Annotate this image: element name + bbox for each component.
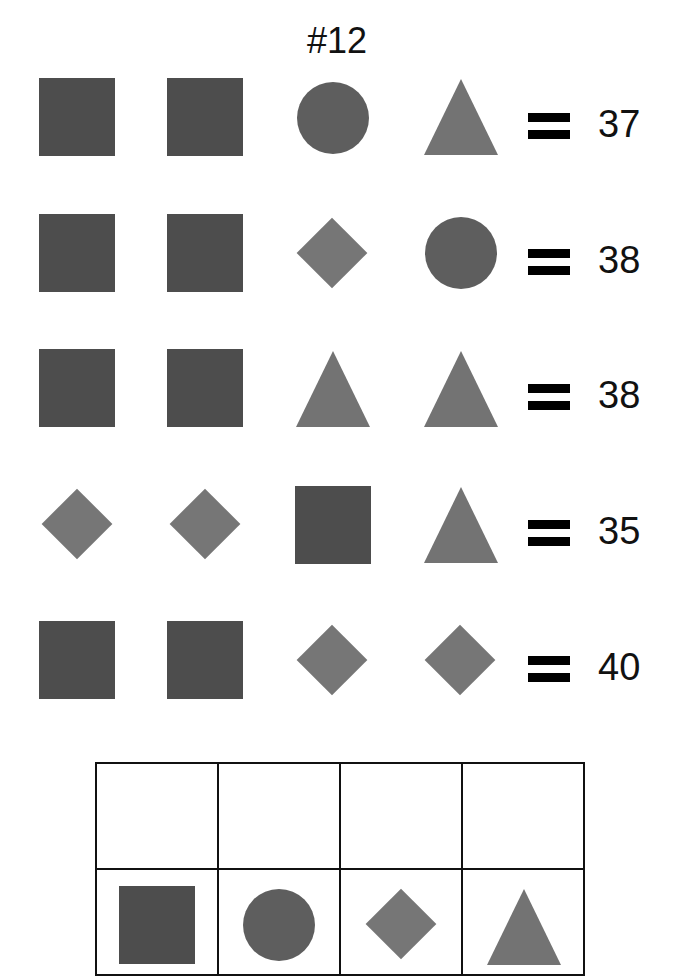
circle-shape: [243, 889, 315, 961]
square-shape: [167, 78, 243, 156]
equals-sign: [528, 384, 570, 418]
square-shape: [39, 214, 115, 292]
square-shape: [39, 78, 115, 156]
square-shape: [167, 621, 243, 699]
equals-sign: [528, 113, 570, 147]
square-shape: [39, 349, 115, 427]
row-value: 38: [598, 374, 640, 417]
square-shape: [167, 349, 243, 427]
diamond-shape: [170, 489, 241, 560]
row-value: 37: [598, 103, 640, 146]
answer-cell[interactable]: [340, 763, 462, 869]
square-shape: [119, 886, 195, 964]
diamond-shape: [42, 489, 113, 560]
puzzle-title: #12: [0, 20, 674, 62]
row-value: 40: [598, 646, 640, 689]
diamond-shape: [297, 625, 368, 696]
diamond-shape: [425, 625, 496, 696]
answer-cell[interactable]: [218, 763, 340, 869]
square-shape: [167, 214, 243, 292]
square-shape: [295, 486, 371, 564]
circle-shape: [425, 217, 497, 289]
answer-cell[interactable]: [96, 763, 218, 869]
circle-shape: [297, 82, 369, 154]
answer-row: [96, 763, 584, 869]
shape-key-row: [96, 869, 584, 975]
triangle-shape: [296, 351, 370, 427]
diamond-shape: [297, 218, 368, 289]
triangle-shape: [424, 351, 498, 427]
square-shape: [39, 621, 115, 699]
row-value: 35: [598, 510, 640, 553]
triangle-shape: [424, 487, 498, 563]
diamond-shape: [366, 889, 437, 960]
equals-sign: [528, 656, 570, 690]
answer-cell[interactable]: [462, 763, 584, 869]
answer-table: [95, 762, 585, 976]
triangle-shape: [424, 79, 498, 155]
equals-sign: [528, 249, 570, 283]
equals-sign: [528, 520, 570, 554]
row-value: 38: [598, 239, 640, 282]
triangle-shape: [487, 889, 561, 965]
